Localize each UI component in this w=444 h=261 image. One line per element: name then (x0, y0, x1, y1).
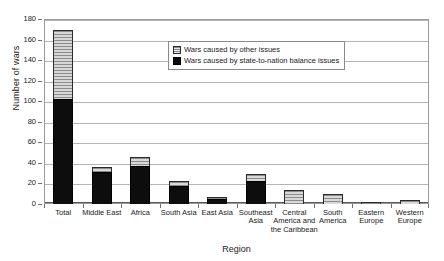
y-axis-tick-label: 60 (28, 138, 36, 146)
bar-segment-state-to-nation[interactable] (53, 99, 73, 204)
y-axis-tick-mark (38, 101, 42, 102)
bar-segment-state-to-nation[interactable] (169, 186, 189, 205)
x-axis-tick-label-line: Europe (384, 217, 436, 225)
legend-entry[interactable]: Wars caused by other issues (173, 44, 339, 55)
chart-container: Number of wars 020406080100120140160180 … (0, 0, 444, 261)
x-axis-tick-mark (237, 204, 238, 208)
y-axis-tick-mark (38, 19, 42, 20)
bar-stack[interactable] (323, 194, 343, 204)
x-axis-tick-label: WesternEurope (384, 209, 436, 226)
bar-segment-other-issues[interactable] (284, 190, 304, 204)
bar-segment-state-to-nation[interactable] (130, 166, 150, 204)
y-axis-tick-mark (38, 60, 42, 61)
x-axis-tick-mark (121, 204, 122, 208)
x-axis-title: Region (44, 244, 429, 254)
y-axis-tick-label: 20 (28, 179, 36, 187)
y-axis-tick-label: 40 (28, 159, 36, 167)
y-axis-tick-mark (38, 40, 42, 41)
legend-swatch-state (173, 57, 181, 65)
x-axis-tick-mark (352, 204, 353, 208)
y-axis-tick-label: 100 (23, 97, 36, 105)
bar-slot (121, 19, 160, 204)
bar-segment-state-to-nation[interactable] (246, 181, 266, 204)
legend-entry[interactable]: Wars caused by state-to-nation balance i… (173, 55, 339, 66)
y-axis-tick-mark (38, 204, 42, 205)
y-axis-tick-mark (38, 183, 42, 184)
y-axis-ticklabels: 020406080100120140160180 (0, 19, 42, 204)
bar-segment-state-to-nation[interactable] (92, 172, 112, 204)
x-axis-tick-mark (44, 204, 45, 208)
legend-label: Wars caused by other issues (184, 45, 280, 54)
x-axis-ticklabels: TotalMiddle EastAfricaSouth AsiaEast Asi… (44, 209, 429, 239)
bar-stack[interactable] (284, 190, 304, 204)
bar-slot (391, 19, 430, 204)
bar-stack[interactable] (246, 174, 266, 204)
y-axis-tick-mark (38, 163, 42, 164)
x-axis-tick-mark (198, 204, 199, 208)
bar-segment-other-issues[interactable] (130, 157, 150, 166)
y-axis-tick-label: 0 (32, 200, 36, 208)
y-axis-tick-mark (38, 81, 42, 82)
x-axis-tick-mark (391, 204, 392, 208)
y-axis-tick-mark (38, 142, 42, 143)
bar-stack[interactable] (169, 181, 189, 204)
bar-stack[interactable] (92, 167, 112, 204)
legend-swatch-other (173, 46, 181, 54)
bar-stack[interactable] (207, 197, 227, 204)
x-axis-tick-mark (428, 204, 429, 208)
bar-segment-other-issues[interactable] (53, 30, 73, 99)
y-axis-tick-label: 120 (23, 77, 36, 85)
x-axis-tick-label-line: the Caribbean (268, 226, 320, 234)
y-axis-tick-label: 160 (23, 36, 36, 44)
bar-slot (352, 19, 391, 204)
x-axis-tick-mark (275, 204, 276, 208)
y-axis-tick-label: 80 (28, 118, 36, 126)
bar-stack[interactable] (53, 30, 73, 204)
x-axis-tick-mark (314, 204, 315, 208)
bar-slot (83, 19, 122, 204)
bar-segment-other-issues[interactable] (323, 194, 343, 204)
bar-slot (44, 19, 83, 204)
bar-stack[interactable] (130, 157, 150, 204)
y-axis-tick-label: 140 (23, 56, 36, 64)
chart-legend: Wars caused by other issuesWars caused b… (168, 41, 345, 70)
y-axis-tick-mark (38, 122, 42, 123)
bar-segment-other-issues[interactable] (246, 174, 266, 181)
legend-label: Wars caused by state-to-nation balance i… (184, 56, 339, 65)
y-axis-tick-label: 180 (23, 15, 36, 23)
